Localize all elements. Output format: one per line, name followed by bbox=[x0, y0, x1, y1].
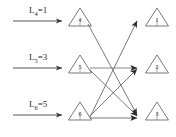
diagram-canvas: L4=1 L5=3 L6=5 4 5 6 1 2 3 bbox=[0, 0, 176, 137]
right-node-2-label: 2 bbox=[152, 64, 162, 70]
arrival-label-L4-value: 1 bbox=[43, 5, 48, 15]
edge-4-to-3 bbox=[88, 24, 137, 115]
left-node-4-label: 4 bbox=[75, 17, 85, 23]
arrival-label-L5-value: 3 bbox=[43, 52, 48, 62]
arrival-label-L5: L5=3 bbox=[29, 52, 47, 64]
right-node-3-label: 3 bbox=[152, 111, 162, 117]
left-node-6-label: 6 bbox=[75, 111, 85, 117]
left-node-5-label: 5 bbox=[75, 64, 85, 70]
arrival-label-L6-value: 5 bbox=[43, 99, 48, 109]
graph-svg bbox=[0, 0, 176, 137]
arrival-label-L6: L6=5 bbox=[29, 99, 47, 111]
arrival-label-L4: L4=1 bbox=[29, 5, 47, 17]
right-node-1-label: 1 bbox=[152, 17, 162, 23]
